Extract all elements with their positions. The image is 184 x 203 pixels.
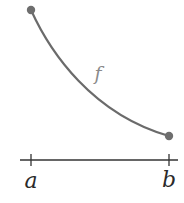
function-label: f <box>94 64 101 83</box>
start-point <box>27 6 35 14</box>
axis-label-a: a <box>24 170 37 192</box>
function-diagram: f a b <box>0 0 184 203</box>
end-point <box>165 132 173 140</box>
axis-label-b: b <box>162 169 176 191</box>
